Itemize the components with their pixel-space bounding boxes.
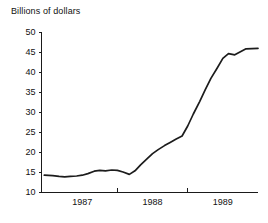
y-tick-label: 40	[25, 67, 35, 77]
x-tick-label: 1989	[213, 197, 233, 207]
y-tick-label: 35	[25, 87, 35, 97]
data-series-line	[44, 48, 258, 176]
x-axis-ticks: 198719881989	[72, 188, 233, 207]
y-tick-label: 25	[25, 127, 35, 137]
chart-container: Billions of dollars 504540353025201510 1…	[0, 0, 268, 223]
y-tick-label: 50	[25, 27, 35, 37]
y-tick-label: 10	[25, 187, 35, 197]
x-tick-label: 1988	[143, 197, 163, 207]
y-tick-label: 45	[25, 47, 35, 57]
line-chart-plot: 504540353025201510 198719881989	[0, 0, 268, 223]
y-tick-label: 20	[25, 147, 35, 157]
y-axis-ticks: 504540353025201510	[25, 27, 41, 197]
y-tick-label: 15	[25, 167, 35, 177]
x-tick-label: 1987	[72, 197, 92, 207]
y-tick-label: 30	[25, 107, 35, 117]
